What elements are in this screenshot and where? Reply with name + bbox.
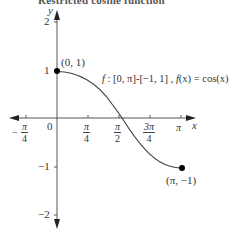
plot-area bbox=[0, 0, 244, 233]
y-axis-arrow-down-icon bbox=[54, 219, 60, 229]
x-tick-pi-over-2: π 2 bbox=[114, 122, 121, 144]
x-axis bbox=[9, 115, 196, 121]
y-tick-2: 2 bbox=[44, 16, 50, 27]
y-tick-minus-2: −2 bbox=[38, 209, 50, 220]
y-tick-1: 1 bbox=[44, 65, 50, 76]
x-tick-3pi-over-4: 3π 4 bbox=[143, 122, 155, 144]
y-axis bbox=[54, 10, 60, 229]
x-tick-minus-pi-over-4: − π 4 bbox=[21, 122, 28, 144]
y-tick-minus-1: −1 bbox=[38, 161, 50, 172]
origin-label: 0 bbox=[47, 121, 53, 132]
x-axis-arrow-left-icon bbox=[9, 115, 19, 121]
start-point-label: (0, 1) bbox=[61, 57, 85, 68]
x-tick-pi: π bbox=[176, 122, 181, 133]
end-point-marker bbox=[179, 165, 185, 171]
x-axis-label: x bbox=[192, 120, 197, 131]
start-point-marker bbox=[54, 68, 60, 74]
x-tick-pi-over-4: π 4 bbox=[83, 122, 90, 144]
cosine-curve bbox=[57, 72, 182, 169]
function-definition-label: f : [0, π]-[−1, 1] , f(x) = cos(x) bbox=[102, 73, 229, 84]
end-point-label: (π, −1) bbox=[166, 175, 196, 186]
y-axis-arrow-up-icon bbox=[54, 10, 60, 20]
